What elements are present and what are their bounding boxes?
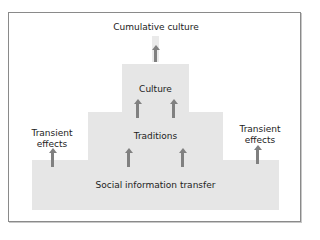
arrow-up-icon [51, 153, 54, 167]
traditions-label: Traditions [134, 131, 178, 141]
arrow-up-icon [181, 153, 184, 167]
arrow-up-icon [136, 104, 139, 118]
arrow-up-icon [127, 153, 130, 167]
arrow-up-icon [154, 50, 157, 62]
arrow-up-icon [172, 104, 175, 118]
culture-label: Culture [139, 84, 172, 94]
social-info-label: Social information transfer [96, 180, 216, 190]
culture-box: Culture [122, 64, 189, 113]
traditions-box: Traditions [88, 112, 223, 160]
transient-effects-right: Transient effects [232, 124, 288, 146]
cumulative-culture-label: Cumulative culture [100, 22, 212, 33]
arrow-up-icon [256, 150, 259, 164]
transient-effects-left: Transient effects [24, 128, 80, 150]
social-info-box: Social information transfer [32, 160, 279, 210]
